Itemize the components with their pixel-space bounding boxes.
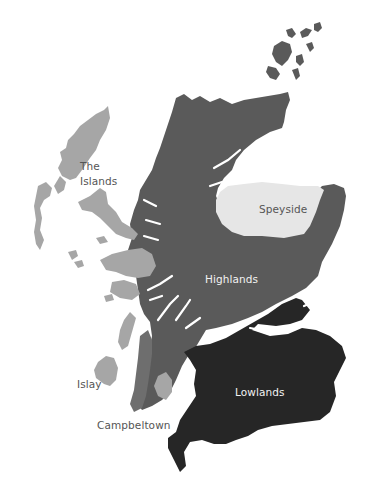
label-lowlands: Lowlands [235,385,285,399]
label-islay: Islay [77,377,102,391]
label-campbeltown: Campbeltown [97,418,171,432]
scotland-whisky-regions-map [0,0,380,492]
label-the-islands-line1: The [80,159,117,173]
label-the-islands: The Islands [80,159,117,188]
label-the-islands-line2: Islands [80,174,117,188]
label-speyside: Speyside [259,202,307,216]
orkney-islands [266,22,322,80]
label-highlands: Highlands [205,272,258,286]
